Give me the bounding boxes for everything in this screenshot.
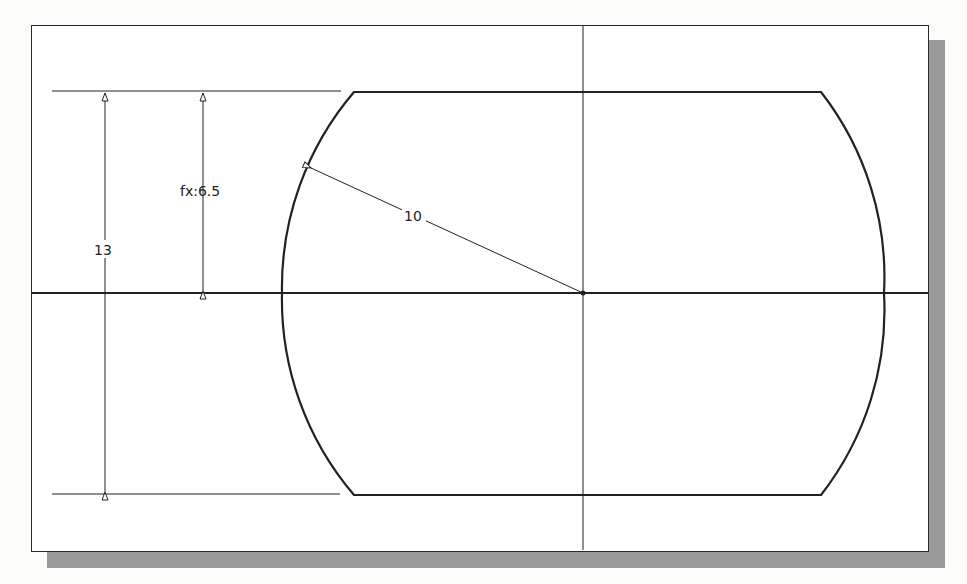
- dimension-label-13: 13: [94, 242, 112, 258]
- dimension-label-fx-6-5: fx:6.5: [180, 183, 220, 199]
- dimension-label-10: 10: [404, 208, 422, 224]
- dimension-arc-radius[interactable]: 10: [311, 168, 586, 296]
- arc-center-point: [581, 291, 586, 296]
- sketch-canvas: 13 fx:6.5 10: [0, 0, 967, 584]
- dimension-half-height[interactable]: fx:6.5: [180, 93, 220, 291]
